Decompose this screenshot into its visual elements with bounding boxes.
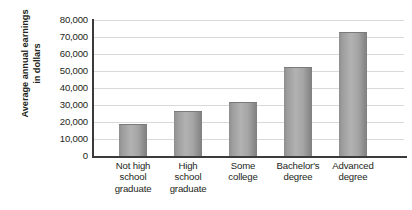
y-tick-label: 40,000 xyxy=(44,83,88,93)
x-axis-category-labels: Not high school graduate High school gra… xyxy=(92,160,407,208)
x-label-advanced-degree: Advanced degree xyxy=(319,160,387,183)
y-tick-label: 60,000 xyxy=(44,49,88,59)
bar-advanced-degree xyxy=(339,32,367,157)
y-tick-label: 0 xyxy=(44,151,88,161)
bar-chart: Average annual earnings in dollars 80,00… xyxy=(0,0,412,210)
y-tick-label: 20,000 xyxy=(44,117,88,127)
bar-high-school-graduate xyxy=(174,111,202,157)
bar-some-college xyxy=(229,102,257,157)
y-tick-label: 70,000 xyxy=(44,32,88,42)
y-tick-label: 80,000 xyxy=(44,15,88,25)
bar-bachelors-degree xyxy=(284,67,312,157)
bar-not-high-school-graduate xyxy=(119,124,147,157)
plot-area xyxy=(92,20,404,157)
gridline xyxy=(92,20,404,21)
y-axis-line xyxy=(92,19,94,158)
y-tick-label: 50,000 xyxy=(44,66,88,76)
x-axis-line xyxy=(92,156,407,158)
y-axis-title: Average annual earnings in dollars xyxy=(20,0,43,139)
y-tick-label: 10,000 xyxy=(44,134,88,144)
y-axis-tick-labels: 80,000 70,000 60,000 50,000 40,000 30,00… xyxy=(44,0,88,210)
y-tick-label: 30,000 xyxy=(44,100,88,110)
